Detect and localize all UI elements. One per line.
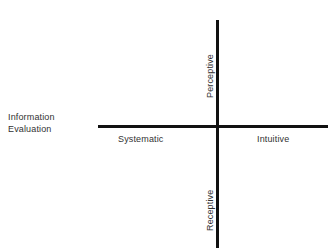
vertical-axis-line [216,20,219,248]
dimension-label-line-2: Evaluation [8,124,55,136]
axis-pole-receptive: Receptive [205,190,215,231]
axis-pole-perceptive: Perceptive [205,54,215,98]
axis-pole-systematic: Systematic [118,134,164,146]
dimension-label-line-1: Information [8,112,55,124]
axis-pole-intuitive: Intuitive [257,134,289,146]
dimension-label: Information Evaluation [8,112,55,135]
quadrant-diagram: Information Evaluation Systematic Intuit… [0,0,334,251]
horizontal-axis-line [98,125,328,128]
